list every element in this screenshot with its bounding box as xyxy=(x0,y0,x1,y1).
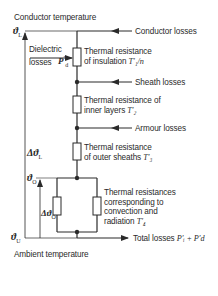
dielectric-symbol: P′d xyxy=(58,55,68,68)
dielectric-sub: d xyxy=(65,62,68,68)
delta-theta-l-glyph: Δϑ xyxy=(27,147,39,158)
insulation-line1: Thermal resistance xyxy=(84,47,152,57)
total-losses-text: Total losses xyxy=(133,234,175,243)
delta-theta-o-symbol: ΔϑO xyxy=(41,208,56,220)
node-ambient xyxy=(75,230,79,234)
outer-sheaths-line2-text: of outer sheaths xyxy=(84,153,141,162)
theta-o-sub: O xyxy=(32,179,36,185)
resistor-inner-layers xyxy=(73,96,81,113)
resistor-insulation xyxy=(73,48,81,66)
inner-layers-line2: inner layers T′₂ xyxy=(84,106,161,116)
convection-label: Thermal resistances corresponding to con… xyxy=(104,188,176,226)
theta-l-sub: L xyxy=(18,32,22,38)
total-losses-label: Total losses P′ᵢ + P′d xyxy=(133,234,204,244)
dielectric-prime: ′ xyxy=(64,55,66,61)
dielectric-label-line2: losses xyxy=(29,58,52,68)
inner-layers-label: Thermal resistance of inner layers T′₂ xyxy=(84,96,161,115)
resistor-outer-sheaths xyxy=(73,143,81,160)
node-armour xyxy=(75,126,79,130)
insulation-line2-text: of insulation xyxy=(84,57,126,66)
theta-l-symbol: ϑL xyxy=(13,25,22,38)
outer-sheaths-line1: Thermal resistance xyxy=(84,143,152,153)
inner-layers-symbol: T′₂ xyxy=(127,106,136,115)
convection-line2: corresponding to xyxy=(104,198,176,208)
convection-line3: convection and xyxy=(104,207,176,217)
conductor-temperature-label: Conductor temperature xyxy=(14,13,96,23)
theta-o-symbol: ϑO xyxy=(27,172,37,185)
armour-losses-label: Armour losses xyxy=(135,124,186,134)
theta-u-sub: U xyxy=(16,238,20,244)
delta-theta-l-symbol: ΔϑL xyxy=(27,147,42,160)
theta-u-symbol: ϑU xyxy=(11,231,21,244)
delta-theta-o-glyph: Δϑ xyxy=(41,208,51,218)
inner-layers-line1: Thermal resistance of xyxy=(84,96,161,106)
insulation-line2: of insulation T′₁/n xyxy=(84,57,152,67)
dielectric-label-line1: Dielectric xyxy=(29,45,62,55)
inner-layers-line2-text: inner layers xyxy=(84,106,125,115)
convection-line1: Thermal resistances xyxy=(104,188,176,198)
outer-sheaths-symbol: T′₃ xyxy=(143,153,152,162)
ambient-temperature-label: Ambient temperature xyxy=(14,250,89,260)
sheath-losses-label: Sheath losses xyxy=(135,78,185,88)
insulation-label: Thermal resistance of insulation T′₁/n xyxy=(84,47,152,66)
resistor-radiation xyxy=(93,197,101,215)
outer-sheaths-label: Thermal resistance of outer sheaths T′₃ xyxy=(84,143,152,162)
delta-theta-o-sub: O xyxy=(51,214,55,220)
convection-line4-text: radiation xyxy=(104,217,135,226)
outer-sheaths-line2: of outer sheaths T′₃ xyxy=(84,153,152,163)
conductor-losses-label: Conductor losses xyxy=(135,27,197,37)
convection-line4: radiation T′₄ xyxy=(104,217,176,227)
total-losses-symbol: P′ᵢ + P′d xyxy=(177,234,205,243)
insulation-symbol: T′₁/n xyxy=(129,57,144,66)
node-sheath xyxy=(75,80,79,84)
convection-symbol: T′₄ xyxy=(137,217,146,226)
node-outer xyxy=(75,176,79,180)
delta-theta-l-sub: L xyxy=(39,154,43,160)
